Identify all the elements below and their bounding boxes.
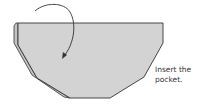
origami-diagram: Insert the pocket. [0,0,199,108]
caption-line-2: pocket. [155,75,199,85]
instruction-caption: Insert the pocket. [155,65,199,85]
paper-shape [18,23,163,98]
caption-line-1: Insert the [155,65,199,75]
